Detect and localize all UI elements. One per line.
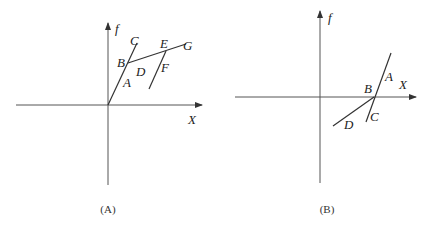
- label-g: G: [183, 38, 193, 53]
- y-axis-label: f: [115, 21, 121, 36]
- label-b: B: [364, 81, 372, 96]
- segment-origin-c: [108, 43, 137, 105]
- label-c: C: [370, 109, 379, 124]
- label-a: A: [384, 69, 393, 84]
- label-c: C: [130, 33, 139, 48]
- label-a: A: [122, 75, 131, 90]
- x-axis-label: X: [187, 112, 197, 127]
- diagram-canvas: f X C B A D E F G (A) f X A B C D (B): [0, 0, 428, 226]
- label-b: B: [117, 55, 125, 70]
- label-f: F: [160, 60, 170, 75]
- y-axis-label: f: [328, 10, 334, 25]
- label-d: D: [343, 117, 354, 132]
- caption-a: (A): [100, 203, 116, 216]
- x-axis-label: X: [398, 77, 408, 92]
- caption-b: (B): [320, 203, 335, 216]
- panel-a: f X C B A D E F G (A): [16, 21, 202, 216]
- label-d: D: [135, 64, 146, 79]
- segment-d-b: [333, 97, 374, 126]
- panel-b: f X A B C D (B): [235, 10, 416, 216]
- label-e: E: [159, 36, 168, 51]
